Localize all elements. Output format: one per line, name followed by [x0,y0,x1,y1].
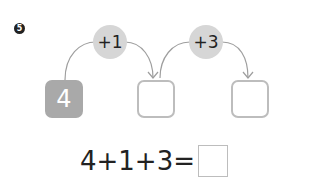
operation-plus-1: +1 [93,25,127,59]
equation-expression: 4+1+3= [80,146,195,176]
start-value-box: 4 [45,80,83,118]
arc-2-start [160,42,190,78]
operation-plus-3: +3 [189,25,223,59]
answer-box-1[interactable] [137,80,175,118]
equation-answer-box[interactable] [198,145,228,177]
answer-box-2[interactable] [231,80,269,118]
arc-1-start [65,42,96,80]
equation: 4+1+3= [80,143,228,179]
